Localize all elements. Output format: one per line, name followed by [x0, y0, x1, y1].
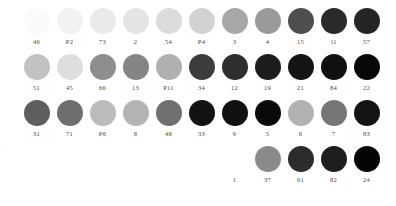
- swatch-label: 83: [363, 130, 370, 138]
- swatch-disc[interactable]: [222, 8, 248, 34]
- swatch-disc[interactable]: [288, 8, 314, 34]
- swatch-row-2: 51 45 66 13 P11 34 12 19: [0, 54, 396, 100]
- swatch-cell[interactable]: 13: [119, 54, 152, 92]
- swatch-cell[interactable]: 66: [86, 54, 119, 92]
- swatch-disc[interactable]: [222, 146, 248, 172]
- swatch-cell[interactable]: 8: [119, 100, 152, 138]
- swatch-cell[interactable]: 45: [53, 54, 86, 92]
- swatch-disc[interactable]: [189, 8, 215, 34]
- swatch-disc[interactable]: [24, 100, 50, 126]
- swatch-cell[interactable]: 7: [317, 100, 350, 138]
- swatch-disc[interactable]: [156, 54, 182, 80]
- swatch-cell[interactable]: P2: [53, 8, 86, 46]
- swatch-disc[interactable]: [354, 8, 380, 34]
- swatch-disc[interactable]: [90, 100, 116, 126]
- swatch-cell[interactable]: 82: [317, 146, 350, 184]
- swatch-disc[interactable]: [255, 100, 281, 126]
- swatch-disc[interactable]: [123, 54, 149, 80]
- swatch-disc[interactable]: [288, 54, 314, 80]
- swatch-label: 71: [66, 130, 73, 138]
- swatch-label: 7: [332, 130, 335, 138]
- swatch-disc[interactable]: [123, 100, 149, 126]
- swatch-cell[interactable]: 5: [251, 100, 284, 138]
- swatch-label: 54: [165, 38, 172, 46]
- swatch-cell[interactable]: 4: [251, 8, 284, 46]
- swatch-disc[interactable]: [222, 54, 248, 80]
- swatch-disc[interactable]: [57, 100, 83, 126]
- swatch-disc[interactable]: [24, 8, 50, 34]
- swatch-disc[interactable]: [288, 100, 314, 126]
- swatch-disc[interactable]: [24, 54, 50, 80]
- swatch-disc[interactable]: [57, 8, 83, 34]
- swatch-cell[interactable]: 11: [317, 8, 350, 46]
- swatch-disc[interactable]: [354, 54, 380, 80]
- swatch-cell[interactable]: 46: [20, 8, 53, 46]
- swatch-cell[interactable]: 22: [350, 54, 383, 92]
- swatch-disc[interactable]: [288, 146, 314, 172]
- swatch-cell[interactable]: 48: [152, 100, 185, 138]
- swatch-cell[interactable]: 84: [317, 54, 350, 92]
- swatch-label: 33: [198, 130, 205, 138]
- swatch-row-1: 46 P2 73 2 54 P4 3 4: [0, 8, 396, 54]
- swatch-cell[interactable]: 57: [350, 8, 383, 46]
- swatch-cell[interactable]: 24: [350, 146, 383, 184]
- swatch-label: 3: [233, 38, 236, 46]
- swatch-cell[interactable]: 33: [185, 100, 218, 138]
- swatch-cell[interactable]: 54: [152, 8, 185, 46]
- swatch-cell[interactable]: 31: [20, 100, 53, 138]
- swatch-cell[interactable]: P4: [185, 8, 218, 46]
- swatch-disc[interactable]: [321, 146, 347, 172]
- swatch-cell[interactable]: 71: [53, 100, 86, 138]
- swatch-label: 82: [330, 176, 337, 184]
- swatch-disc[interactable]: [321, 100, 347, 126]
- swatch-cell[interactable]: 12: [218, 54, 251, 92]
- swatch-disc[interactable]: [189, 54, 215, 80]
- swatch-cell[interactable]: P6: [86, 100, 119, 138]
- swatch-disc[interactable]: [321, 8, 347, 34]
- swatch-label: 2: [134, 38, 137, 46]
- swatch-label: 73: [99, 38, 106, 46]
- swatch-label: 15: [297, 38, 304, 46]
- swatch-disc[interactable]: [255, 8, 281, 34]
- swatch-disc[interactable]: [255, 54, 281, 80]
- swatch-disc[interactable]: [156, 8, 182, 34]
- swatch-label: 4: [266, 38, 269, 46]
- swatch-label: 19: [264, 84, 271, 92]
- swatch-label: 24: [363, 176, 370, 184]
- swatch-label: 45: [66, 84, 73, 92]
- swatch-label: 84: [330, 84, 337, 92]
- swatch-cell[interactable]: 21: [284, 54, 317, 92]
- swatch-label: 34: [198, 84, 205, 92]
- swatch-cell[interactable]: 1: [218, 146, 251, 184]
- swatch-cell[interactable]: 6: [284, 100, 317, 138]
- swatch-label: P11: [163, 84, 173, 92]
- swatch-cell[interactable]: 2: [119, 8, 152, 46]
- swatch-disc[interactable]: [354, 100, 380, 126]
- swatch-label: 37: [264, 176, 271, 184]
- swatch-disc[interactable]: [321, 54, 347, 80]
- swatch-cell[interactable]: 37: [251, 146, 284, 184]
- swatch-disc[interactable]: [123, 8, 149, 34]
- swatch-cell[interactable]: P11: [152, 54, 185, 92]
- swatch-cell[interactable]: 3: [218, 8, 251, 46]
- swatch-cell[interactable]: 73: [86, 8, 119, 46]
- swatch-label: 61: [297, 176, 304, 184]
- swatch-cell[interactable]: 19: [251, 54, 284, 92]
- swatch-label: 57: [363, 38, 370, 46]
- swatch-label: 21: [297, 84, 304, 92]
- swatch-disc[interactable]: [189, 100, 215, 126]
- swatch-cell[interactable]: 9: [218, 100, 251, 138]
- swatch-disc[interactable]: [57, 54, 83, 80]
- swatch-disc[interactable]: [354, 146, 380, 172]
- swatch-disc[interactable]: [156, 100, 182, 126]
- swatch-cell[interactable]: 83: [350, 100, 383, 138]
- swatch-disc[interactable]: [90, 8, 116, 34]
- swatch-cell[interactable]: 51: [20, 54, 53, 92]
- swatch-cell[interactable]: 61: [284, 146, 317, 184]
- swatch-disc[interactable]: [90, 54, 116, 80]
- swatch-label: P6: [99, 130, 106, 138]
- swatch-cell[interactable]: 34: [185, 54, 218, 92]
- swatch-disc[interactable]: [222, 100, 248, 126]
- swatch-cell[interactable]: 15: [284, 8, 317, 46]
- swatch-disc[interactable]: [255, 146, 281, 172]
